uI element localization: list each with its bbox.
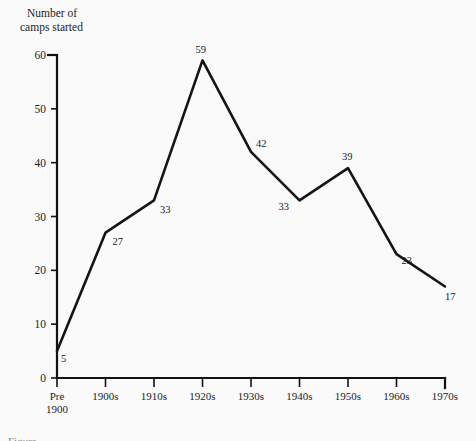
y-tick-label: 30 [35,211,47,223]
x-axis-ticks: Pre19001900s1910s1920s1930s1940s1950s196… [46,378,458,415]
data-series-line [57,60,445,351]
x-tick-label: 1910s [141,390,167,402]
data-point-value-label: 59 [196,44,207,55]
x-tick-label: 1920s [189,390,215,402]
x-tick-label: 1940s [286,390,312,402]
x-tick-label: 1900s [92,390,118,402]
x-tick-label: 1970s [432,390,458,402]
x-tick-label: 1960s [383,390,409,402]
data-point-value-label: 27 [113,236,124,247]
y-tick-label: 10 [35,318,47,330]
y-tick-label: 50 [35,103,47,115]
x-tick-label-second-line: 1900 [46,403,69,415]
x-tick-label: 1950s [335,390,361,402]
x-tick-label: 1930s [238,390,264,402]
axes-group [48,55,445,388]
figure-caption-partial: Figure [8,435,148,441]
y-tick-label: 20 [35,264,47,276]
data-point-labels: 52733594233392317 [61,44,456,364]
figure-canvas: Number of camps started 0102030405060 Pr… [0,0,476,441]
y-tick-label: 40 [35,157,47,169]
axis-lines [57,55,445,378]
y-tick-label: 0 [40,372,46,384]
data-point-value-label: 33 [160,204,171,215]
y-axis-ticks: 0102030405060 [35,49,58,384]
data-point-value-label: 33 [279,201,290,212]
data-point-value-label: 5 [61,353,66,364]
data-point-value-label: 42 [256,138,267,149]
y-axis-title-line2: camps started [20,21,83,34]
y-tick-label: 60 [35,49,47,61]
data-point-value-label: 23 [402,255,413,266]
data-point-value-label: 17 [445,291,456,302]
line-chart: Number of camps started 0102030405060 Pr… [0,0,476,441]
y-axis-title-line1: Number of [27,7,77,19]
data-point-value-label: 39 [342,151,353,162]
x-tick-label: Pre [50,390,65,402]
